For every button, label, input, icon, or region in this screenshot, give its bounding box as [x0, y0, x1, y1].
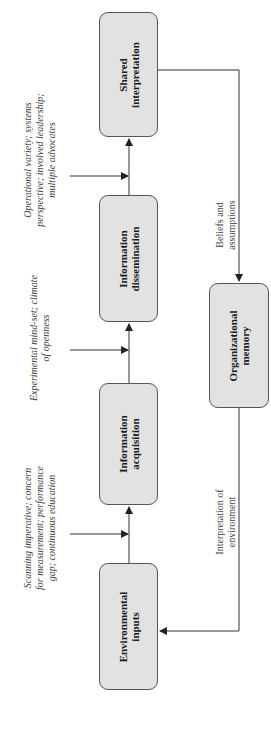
node-label: Information acquisition: [117, 415, 141, 472]
node-information-acquisition: Information acquisition: [99, 383, 158, 505]
node-label: Information dissemination: [117, 226, 141, 291]
node-organizational-memory: Organizational memory: [209, 283, 269, 408]
edge-label-interpretation-of-environment: Interpretation of environment: [214, 489, 238, 554]
node-environmental-inputs: Environmental inputs: [99, 563, 158, 690]
annotation-acquisition-factors: Scanning imperative; concern for measure…: [22, 466, 58, 590]
annotation-interpretation-factors: Operational variety; systems perspective…: [22, 93, 58, 226]
node-information-dissemination: Information dissemination: [99, 195, 158, 322]
node-label: Shared interpretation: [117, 42, 141, 108]
node-label: Organizational memory: [227, 310, 251, 381]
edge-label-beliefs: Beliefs and assumptions: [214, 200, 238, 249]
learning-process-diagram: Shared interpretation Information dissem…: [0, 0, 271, 734]
annotation-dissemination-factors: Experimental mind-set; climate of openne…: [28, 275, 52, 401]
node-shared-interpretation: Shared interpretation: [99, 12, 158, 137]
node-label: Environmental inputs: [117, 591, 141, 662]
